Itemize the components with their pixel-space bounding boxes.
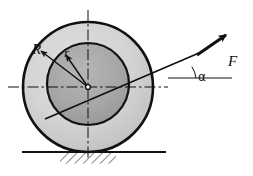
mechanics-diagram: R r F α xyxy=(0,0,253,176)
angle-arc xyxy=(192,67,196,78)
force-arrow xyxy=(197,35,226,55)
ground-hatching xyxy=(60,153,116,164)
label-force: F xyxy=(227,53,238,69)
label-outer-radius: R xyxy=(31,41,41,57)
label-angle: α xyxy=(198,70,206,84)
diagram-canvas: R r F α xyxy=(0,0,253,176)
center-point xyxy=(86,85,89,88)
